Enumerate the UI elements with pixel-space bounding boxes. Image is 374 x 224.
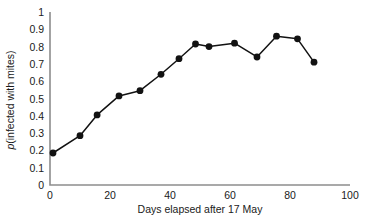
data-point-marker — [176, 55, 183, 62]
y-tick-label: 0.3 — [29, 127, 44, 139]
x-tick-label: 60 — [224, 189, 236, 201]
data-point-marker — [50, 150, 57, 157]
y-axis-tick-labels: 00.10.20.30.40.50.60.70.80.91 — [29, 6, 44, 191]
x-tick-label: 80 — [284, 189, 296, 201]
x-tick-label: 100 — [341, 189, 359, 201]
chart-figure: 020406080100 00.10.20.30.40.50.60.70.80.… — [0, 0, 374, 224]
data-point-marker — [311, 59, 318, 66]
data-point-marker — [231, 40, 238, 47]
x-axis-tick-labels: 020406080100 — [47, 189, 359, 201]
y-tick-label: 0.7 — [29, 58, 44, 70]
line-chart: 020406080100 00.10.20.30.40.50.60.70.80.… — [0, 0, 374, 224]
data-point-marker — [273, 33, 280, 40]
y-tick-label: 0.1 — [29, 162, 44, 174]
x-tick-label: 0 — [47, 189, 53, 201]
y-tick-label: 0.6 — [29, 75, 44, 87]
data-series-line — [53, 36, 314, 153]
data-point-marker — [158, 71, 165, 78]
data-point-markers — [50, 33, 318, 157]
x-tick-label: 40 — [164, 189, 176, 201]
y-tick-label: 1 — [38, 6, 44, 18]
y-tick-label: 0.9 — [29, 23, 44, 35]
y-tick-label: 0.8 — [29, 41, 44, 53]
y-tick-label: 0.5 — [29, 93, 44, 105]
chart-axes — [50, 12, 350, 185]
y-axis-title: p(infected with mites) — [4, 50, 16, 150]
data-point-marker — [206, 43, 213, 50]
data-point-marker — [94, 112, 101, 119]
axis-spine — [50, 12, 350, 185]
data-point-marker — [77, 132, 84, 139]
y-tick-label: 0 — [38, 179, 44, 191]
y-tick-label: 0.4 — [29, 110, 44, 122]
data-point-marker — [192, 41, 199, 48]
y-tick-label: 0.2 — [29, 144, 44, 156]
data-point-marker — [116, 93, 123, 100]
data-point-marker — [137, 87, 144, 94]
data-point-marker — [294, 35, 301, 42]
data-point-marker — [254, 54, 261, 61]
x-axis-title: Days elapsed after 17 May — [138, 203, 264, 215]
x-tick-label: 20 — [104, 189, 116, 201]
y-axis-title-rest: (infected with mites) — [4, 50, 16, 143]
